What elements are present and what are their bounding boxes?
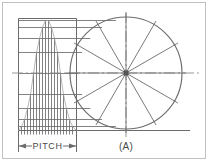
center-hub bbox=[124, 71, 129, 76]
radial-spoke-150 bbox=[74, 43, 126, 73]
radial-spoke-210 bbox=[74, 73, 126, 103]
radial-spoke-120 bbox=[96, 21, 126, 73]
pitch-arrowhead-right bbox=[69, 143, 76, 148]
radial-spoke-240 bbox=[96, 73, 126, 125]
radial-spoke-30 bbox=[126, 43, 178, 73]
pitch-label: PITCH bbox=[33, 141, 63, 151]
radial-spoke-60 bbox=[126, 21, 156, 73]
pitch-arrowhead-left bbox=[19, 143, 26, 148]
figure-frame-border bbox=[3, 3, 206, 159]
drawing-canvas: PITCH (A) bbox=[0, 0, 208, 161]
radial-spoke-330 bbox=[126, 73, 178, 103]
vertical-ordinate-lines bbox=[19, 21, 77, 135]
technical-drawing-figure: PITCH (A) bbox=[0, 0, 208, 161]
figure-label: (A) bbox=[119, 141, 133, 152]
radial-spoke-300 bbox=[126, 73, 156, 125]
